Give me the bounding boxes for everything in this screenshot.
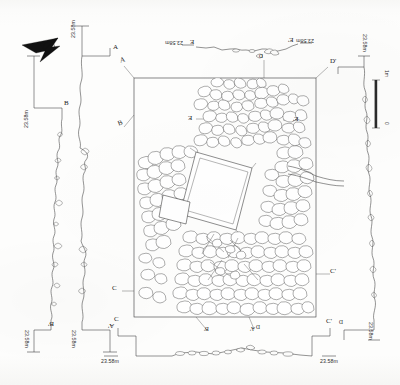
marker-c-prime-section: C' (326, 318, 332, 325)
marker-d-top-plan: D (259, 52, 263, 58)
datum-label-a-top: 23.58m (71, 20, 76, 38)
marker-b-prime-plan: B' (204, 325, 209, 331)
section-c-c-prime-profile (104, 328, 336, 356)
marker-c-prime-plan: C' (330, 268, 336, 275)
datum-label-b-bottom: 23.58m (24, 330, 29, 348)
track-line (316, 176, 344, 181)
datum-label-e-right: 23.58m (296, 38, 314, 43)
marker-d-bottom-plan: D (256, 323, 260, 329)
datum-label-c-bottom-left: 23.58m (101, 359, 119, 364)
datum-label-b-top: 23.58m (24, 110, 29, 128)
datum-label-d-bottom-right: 23.58m (368, 322, 373, 340)
marker-c-plan: C (112, 285, 117, 292)
north-arrow-icon (22, 38, 60, 62)
datum-label-d-right: 23.58m (362, 34, 367, 52)
marker-a-prime-plan: A' (250, 325, 255, 331)
site-plan-drawing (0, 0, 400, 385)
marker-e-prime-plan: E' (293, 115, 299, 122)
datum-label-e-left: 23.58m (165, 40, 183, 45)
section-e-e-prime-profile (182, 43, 312, 58)
marker-d-bottom-right: D (339, 318, 343, 324)
marker-d-prime-top: D' (330, 58, 336, 65)
scale-bar-top-label: 1m (384, 70, 390, 77)
marker-b-prime-bottom: B' (48, 320, 54, 327)
section-d-d-prime-profile (338, 56, 380, 340)
marker-a-prime-bottom: A' (108, 322, 114, 329)
plan-stone-features (137, 78, 316, 316)
marker-a-top: A (113, 44, 118, 51)
marker-b-top: B (64, 100, 69, 107)
marker-c-section: C (114, 316, 119, 323)
datum-label-c-bottom-right: 23.58m (320, 359, 338, 364)
marker-e-plan: E (188, 114, 192, 121)
marker-e-section: E (190, 38, 194, 45)
section-a-a-prime-profile (75, 26, 117, 352)
marker-e-prime-section: E' (288, 36, 294, 43)
datum-label-a-bottom: 23.58m (71, 330, 76, 348)
scale-bar (372, 80, 380, 128)
section-b-b-prime-profile (27, 56, 63, 352)
scale-bar-bottom-label: 0 (384, 122, 390, 125)
